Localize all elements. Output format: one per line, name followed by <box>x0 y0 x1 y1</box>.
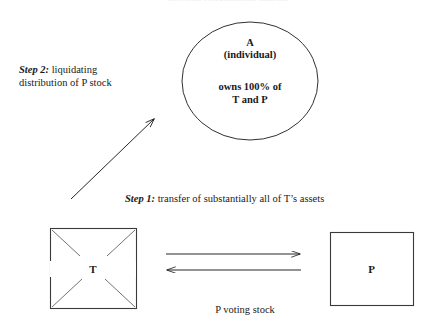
diagram-canvas: corporate reorganization diagram A (indi… <box>0 0 433 336</box>
stock-consideration-caption: P voting stock <box>185 303 305 316</box>
step2-lead: Step 2: <box>19 64 49 75</box>
ownership-line-1: owns 100% of <box>218 81 281 92</box>
step2-text-line1: liquidating <box>49 64 97 75</box>
shareholder-descriptor-label: (individual) <box>182 48 318 61</box>
liquidating-distribution-arrow <box>71 119 154 199</box>
step1-caption: Step 1: transfer of substantially all of… <box>125 192 324 205</box>
target-box-label: T <box>50 261 136 277</box>
step2-text-line2: distribution of P stock <box>19 77 112 88</box>
shareholder-ownership-label: owns 100% ofT and P <box>182 80 318 107</box>
step2-caption: Step 2: liquidatingdistribution of P sto… <box>19 63 169 90</box>
acquirer-box-label: P <box>330 262 413 276</box>
step1-text: transfer of substantially all of T’s ass… <box>155 193 324 204</box>
step1-lead: Step 1: <box>125 193 155 204</box>
page-title-sliver: corporate reorganization diagram <box>108 0 348 1</box>
ownership-line-2: T and P <box>232 94 267 105</box>
